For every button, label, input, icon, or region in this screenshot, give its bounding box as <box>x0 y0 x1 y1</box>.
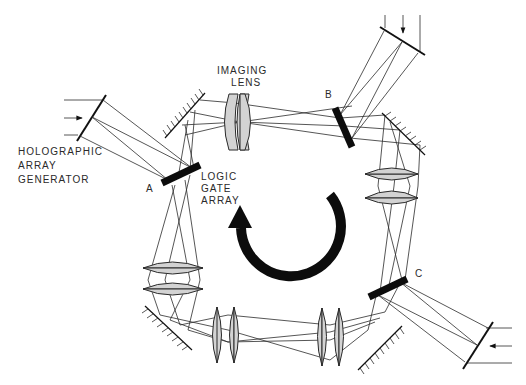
mirror-top-right <box>382 112 426 155</box>
imaging-lens-bottom-2 <box>318 308 344 366</box>
node-a-label: A <box>146 183 154 195</box>
logic-gate-array-b <box>335 108 352 147</box>
loop-rays <box>148 100 420 360</box>
optical-diagram: IMAGING LENS HOLOGRAPHIC ARRAY GENERATOR… <box>0 0 526 385</box>
node-b-label: B <box>325 89 333 101</box>
node-c-label: C <box>415 268 423 280</box>
imaging-lens-left <box>143 262 203 295</box>
logic-gate-array-c <box>369 279 407 297</box>
imaging-lens-top <box>225 94 251 150</box>
mirror-bottom-left <box>142 306 192 350</box>
logic-gate-array-label: LOGIC GATE ARRAY <box>201 171 240 207</box>
mirror-bottom-right <box>358 326 404 374</box>
holographic-array-generator-right <box>378 282 512 369</box>
holographic-array-generator-top <box>340 15 425 138</box>
holographic-array-generator-label: HOLOGRAPHIC ARRAY GENERATOR <box>18 146 103 186</box>
imaging-lens-right <box>365 168 418 204</box>
counterclockwise-flow-arrow-icon <box>228 195 341 276</box>
logic-gate-array-a <box>162 165 200 183</box>
imaging-lens-label: IMAGING LENS <box>217 65 267 89</box>
